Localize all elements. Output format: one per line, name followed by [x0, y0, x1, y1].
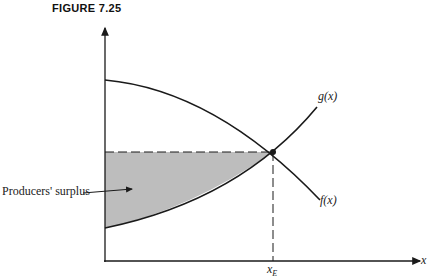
- equilibrium-point: [270, 149, 276, 155]
- g-curve-label: g(x): [318, 89, 337, 104]
- x-axis-label: x: [421, 253, 426, 268]
- f-curve-label: f(x): [320, 193, 337, 208]
- equilibrium-x-label: xE: [267, 262, 277, 278]
- producers-surplus-label: Producers' surplus: [2, 184, 90, 199]
- producers-surplus-region: [105, 152, 273, 228]
